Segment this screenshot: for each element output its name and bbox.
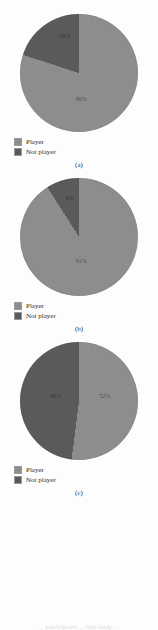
pie-chart-c: 48% 52% [20, 342, 138, 460]
pie-chart-b: 9% 91% [20, 178, 138, 296]
pie-a-not-player-label: 20% [59, 33, 70, 39]
page-footer-fragment: ... participants ... this study ... [0, 624, 158, 630]
legend-item-not-player-b: Not player [14, 312, 158, 320]
legend-a: Player Not player [0, 138, 158, 156]
figure-c: 48% 52% Player Not player (c) [0, 333, 158, 497]
legend-item-player-a: Player [14, 138, 158, 146]
legend-swatch-not-player-icon [14, 148, 22, 156]
pie-chart-a: 20% 80% [20, 14, 138, 132]
legend-label-player: Player [26, 302, 44, 310]
pie-b-player-label: 91% [76, 258, 87, 264]
figure-caption-b: (b) [0, 325, 158, 333]
legend-item-not-player-c: Not player [14, 476, 158, 484]
legend-label-player: Player [26, 466, 44, 474]
legend-item-player-b: Player [14, 302, 158, 310]
pie-chart-c-wrapper: 48% 52% [0, 342, 158, 460]
figure-page: 20% 80% Player Not player (a) 9% 91% [0, 0, 158, 630]
legend-item-player-c: Player [14, 466, 158, 474]
figure-b: 9% 91% Player Not player (b) [0, 169, 158, 333]
pie-chart-a-wrapper: 20% 80% [0, 14, 158, 132]
legend-b: Player Not player [0, 302, 158, 320]
legend-swatch-not-player-icon [14, 312, 22, 320]
figure-caption-a: (a) [0, 161, 158, 169]
legend-item-not-player-a: Not player [14, 148, 158, 156]
pie-a-player-label: 80% [76, 96, 87, 102]
legend-c: Player Not player [0, 466, 158, 484]
legend-label-player: Player [26, 138, 44, 146]
legend-swatch-not-player-icon [14, 476, 22, 484]
legend-label-not-player: Not player [26, 312, 56, 320]
pie-chart-b-wrapper: 9% 91% [0, 178, 158, 296]
legend-swatch-player-icon [14, 138, 22, 146]
figure-a: 20% 80% Player Not player (a) [0, 0, 158, 169]
legend-label-not-player: Not player [26, 148, 56, 156]
pie-c-player-label: 52% [100, 393, 111, 399]
legend-swatch-player-icon [14, 466, 22, 474]
pie-b-not-player-label: 9% [66, 195, 74, 201]
figure-caption-c: (c) [0, 489, 158, 497]
pie-c-not-player-label: 48% [50, 393, 61, 399]
legend-label-not-player: Not player [26, 476, 56, 484]
legend-swatch-player-icon [14, 302, 22, 310]
